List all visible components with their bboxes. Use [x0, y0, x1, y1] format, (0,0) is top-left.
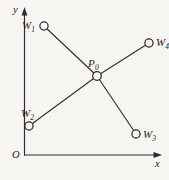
edge-p0-w2 [29, 76, 97, 126]
y-axis-label: y [13, 5, 18, 16]
node-w2 [25, 122, 33, 130]
node-label-w1-main: W [22, 19, 31, 31]
node-label-w2-main: W [21, 107, 30, 119]
origin-label: O [12, 150, 20, 161]
node-p0 [93, 72, 102, 81]
node-label-w4: W4 [156, 37, 169, 48]
node-label-p0: P0 [88, 58, 98, 69]
node-label-w3: W3 [143, 129, 156, 140]
node-label-p0-main: P [88, 57, 95, 69]
node-label-w4-sub: 4 [165, 42, 169, 51]
node-label-w2: W2 [21, 108, 34, 119]
node-label-w1-sub: 1 [31, 25, 35, 34]
node-label-w3-main: W [143, 128, 152, 140]
edge-p0-w3 [97, 76, 136, 134]
x-axis-label: x [155, 159, 160, 170]
node-w4 [145, 39, 153, 47]
node-label-w2-sub: 2 [30, 113, 34, 122]
node-label-w1: W1 [22, 20, 35, 31]
node-label-w4-main: W [156, 36, 165, 48]
node-label-p0-sub: 0 [95, 63, 99, 72]
node-w1 [40, 22, 48, 30]
figure-container: W1 W4 P0 W2 W3 y x O [0, 0, 169, 180]
edge-p0-w4 [97, 43, 149, 76]
node-label-w3-sub: 3 [152, 134, 156, 143]
y-axis-arrow-icon [22, 7, 28, 16]
node-w3 [132, 130, 140, 138]
